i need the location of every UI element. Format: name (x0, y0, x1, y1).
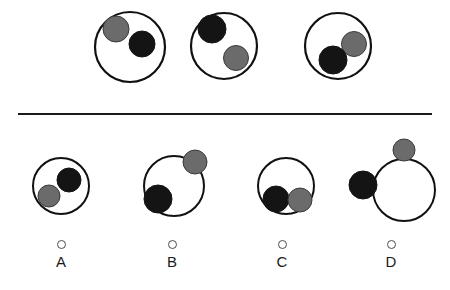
option-b-letter: B (142, 254, 202, 270)
option-c-figure[interactable] (258, 158, 314, 214)
option-a[interactable]: A (31, 240, 91, 270)
option-b-figure[interactable] (144, 150, 207, 216)
gray-ball (183, 150, 207, 174)
black-ball (198, 15, 226, 43)
puzzle-stage: ABCD (0, 0, 450, 290)
black-ball (263, 186, 289, 212)
prompt-figure-2 (191, 13, 257, 79)
prompt-figure-3 (305, 13, 371, 79)
black-ball (129, 31, 155, 57)
gray-ball (103, 16, 129, 42)
option-a-figure[interactable] (33, 158, 89, 214)
gray-ball (393, 139, 415, 161)
option-d-figure[interactable] (349, 139, 435, 221)
option-d-radio[interactable] (387, 240, 396, 249)
option-c-radio[interactable] (278, 240, 287, 249)
option-b-radio[interactable] (168, 240, 177, 249)
gray-ball (38, 185, 60, 207)
option-d-letter: D (361, 254, 421, 270)
host-circle (373, 159, 435, 221)
prompt-figure-1 (95, 12, 165, 82)
option-a-letter: A (31, 254, 91, 270)
prompt-sequence (95, 12, 371, 82)
option-c-letter: C (252, 254, 312, 270)
black-ball (144, 185, 172, 213)
gray-ball (224, 46, 249, 71)
black-ball (319, 46, 347, 74)
black-ball (57, 168, 81, 192)
option-b[interactable]: B (142, 240, 202, 270)
option-d[interactable]: D (361, 240, 421, 270)
option-c[interactable]: C (252, 240, 312, 270)
gray-ball (288, 188, 312, 212)
answer-options-figures (33, 139, 435, 221)
black-ball (349, 171, 377, 199)
option-a-radio[interactable] (57, 240, 66, 249)
